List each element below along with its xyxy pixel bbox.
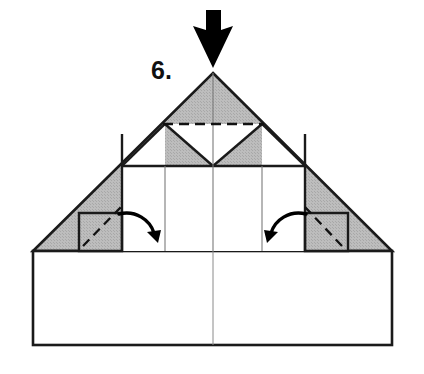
origami-diagram-root: 6.: [0, 0, 424, 374]
push-down-arrow: [193, 10, 233, 68]
step-number-label: 6.: [151, 56, 172, 84]
left-shaded-flap: [79, 213, 122, 251]
origami-illustration: 6.: [0, 0, 424, 374]
